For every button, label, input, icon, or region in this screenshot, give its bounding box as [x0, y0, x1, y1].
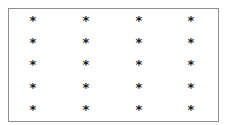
asterisk-glyph: * [79, 103, 93, 117]
asterisk-icon: * [26, 101, 40, 115]
asterisk-icon: * [79, 56, 93, 70]
asterisk-icon: * [26, 34, 40, 48]
asterisk-glyph: * [132, 36, 146, 50]
asterisk-glyph: * [79, 58, 93, 72]
asterisk-glyph: * [132, 14, 146, 28]
asterisk-glyph: * [132, 103, 146, 117]
asterisk-glyph: * [26, 58, 40, 72]
asterisk-glyph: * [26, 81, 40, 95]
asterisk-glyph: * [184, 103, 198, 117]
asterisk-icon: * [26, 56, 40, 70]
asterisk-glyph: * [26, 103, 40, 117]
asterisk-glyph: * [26, 14, 40, 28]
asterisk-glyph: * [184, 81, 198, 95]
asterisk-icon: * [132, 101, 146, 115]
asterisk-icon: * [132, 56, 146, 70]
asterisk-glyph: * [79, 81, 93, 95]
asterisk-glyph: * [132, 81, 146, 95]
asterisk-glyph: * [184, 58, 198, 72]
asterisk-icon: * [132, 79, 146, 93]
asterisk-icon: * [26, 12, 40, 26]
asterisk-icon: * [184, 101, 198, 115]
asterisk-glyph: * [184, 14, 198, 28]
asterisk-icon: * [132, 34, 146, 48]
asterisk-glyph: * [79, 14, 93, 28]
asterisk-icon: * [79, 12, 93, 26]
asterisk-icon: * [184, 79, 198, 93]
asterisk-icon: * [184, 56, 198, 70]
asterisk-icon: * [79, 101, 93, 115]
asterisk-icon: * [79, 79, 93, 93]
asterisk-glyph: * [132, 58, 146, 72]
asterisk-icon: * [184, 34, 198, 48]
asterisk-icon: * [184, 12, 198, 26]
asterisk-icon: * [79, 34, 93, 48]
asterisk-icon: * [26, 79, 40, 93]
asterisk-icon: * [132, 12, 146, 26]
asterisk-glyph: * [26, 36, 40, 50]
asterisk-glyph: * [184, 36, 198, 50]
asterisk-glyph: * [79, 36, 93, 50]
